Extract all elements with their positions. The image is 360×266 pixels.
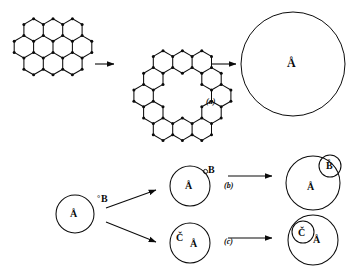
middle-b-a-label: Å [185, 181, 192, 191]
arrow-branch-upper [106, 190, 156, 208]
result-b-inclusion-label: B̊ [326, 161, 333, 171]
result-b-a-label: Å [307, 182, 314, 192]
sphere-a-label: Å [287, 57, 296, 69]
panel-c-tag: (c) [224, 238, 233, 246]
arrow-branch-lower [106, 222, 156, 242]
graphene-flake [14, 19, 92, 75]
result-c-inclusion-label: Č [298, 228, 305, 238]
diagram-vector-layer [0, 0, 360, 266]
figure-canvas: Å (a) Å ° B Å B Č Å (b) (c) B̊ Å Č Å [0, 0, 360, 266]
panel-a-tag: (a) [206, 98, 215, 106]
source-a-label: Å [70, 209, 77, 219]
middle-c-a-label: Å [190, 239, 197, 249]
middle-b-label: B [208, 165, 215, 175]
source-b-degree: ° [97, 195, 100, 203]
panel-b-tag: (b) [224, 182, 233, 190]
middle-c-label: Č [176, 233, 183, 243]
result-c-a-label: Å [313, 235, 320, 245]
source-b-label: B [101, 194, 108, 204]
hexagonal-ring-vertices [132, 49, 232, 142]
